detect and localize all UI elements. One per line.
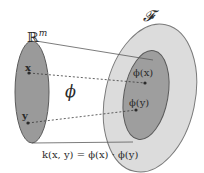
kernel-equation: k(x, y) = ϕ(x) · ϕ(y) [42, 150, 138, 160]
phi-y-label: ϕ(y) [129, 98, 149, 108]
kernel-diagram: ℝm 𝓕 x y ϕ ϕ(x) ϕ(y) k(x, y) = ϕ(x) · ϕ(… [0, 0, 204, 173]
input-space-ellipse [15, 41, 49, 143]
point-phi-y [134, 108, 137, 111]
point-y-label: y [22, 111, 28, 121]
point-x-label: x [25, 63, 31, 73]
point-phi-x [143, 81, 146, 84]
point-y [26, 121, 29, 124]
diagram-graphic [0, 0, 204, 173]
phi-x-label: ϕ(x) [133, 68, 153, 78]
input-space-label: ℝm [27, 29, 47, 44]
mapping-label: ϕ [65, 84, 76, 100]
feature-space-label: 𝓕 [143, 9, 154, 24]
